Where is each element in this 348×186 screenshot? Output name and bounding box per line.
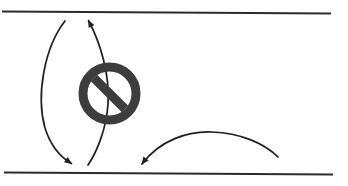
left-outbound-curve-arrowhead (64, 157, 72, 164)
diagram-root (0, 0, 348, 186)
trajectory-group (41, 20, 278, 165)
bottom-road-edge-line (4, 173, 333, 175)
prohibition-sign-slash (94, 78, 125, 109)
road-edges (2, 12, 333, 175)
top-road-edge-line (2, 12, 331, 14)
prohibition-sign-icon (83, 67, 136, 120)
diagram-canvas (0, 0, 348, 186)
left-outbound-curve-path (41, 21, 71, 164)
right-merge-arc-path (142, 132, 278, 164)
